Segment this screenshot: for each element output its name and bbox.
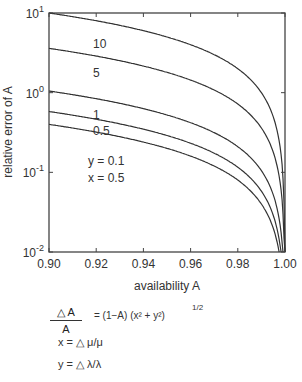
curve-labels: 10510.5 bbox=[93, 37, 110, 138]
y-axis-label: relative error of A bbox=[1, 86, 15, 177]
curve-1 bbox=[49, 91, 283, 252]
curve-lowest bbox=[49, 124, 279, 252]
curve-label: 10 bbox=[93, 37, 107, 51]
formula-x-definition: x = △ μ/μ bbox=[58, 336, 103, 349]
x-tick-label: 0.94 bbox=[132, 257, 156, 271]
chart: 0.900.920.940.960.981.00 10110010-110-2 … bbox=[0, 0, 302, 300]
formula-denominator: A bbox=[50, 321, 82, 335]
x-axis-ticks: 0.900.920.940.960.981.00 bbox=[37, 13, 297, 271]
y-tick-label: 10-1 bbox=[23, 163, 44, 180]
annotation-x: x = 0.5 bbox=[88, 171, 125, 185]
curve-label: 0.5 bbox=[93, 124, 110, 138]
curve-0.5 bbox=[49, 112, 281, 253]
curve-label: 5 bbox=[93, 66, 100, 80]
formula-rhs: = (1−A) (x² + y²) bbox=[94, 310, 165, 321]
x-tick-label: 0.98 bbox=[226, 257, 250, 271]
curve-10 bbox=[49, 13, 285, 252]
plot-frame bbox=[49, 13, 285, 252]
curves bbox=[49, 13, 285, 252]
x-axis-label: availability A bbox=[134, 279, 200, 293]
formula-fraction: △ A A bbox=[50, 306, 82, 335]
formula-y-definition: y = △ λ/λ bbox=[58, 358, 101, 371]
y-tick-label: 100 bbox=[26, 84, 44, 101]
x-tick-label: 0.92 bbox=[85, 257, 109, 271]
y-tick-label: 101 bbox=[26, 4, 44, 21]
curve-label: 1 bbox=[93, 108, 100, 122]
formula-numerator: △ A bbox=[50, 306, 82, 321]
x-tick-label: 0.90 bbox=[37, 257, 61, 271]
formula-exponent: 1/2 bbox=[192, 303, 203, 312]
x-tick-label: 1.00 bbox=[273, 257, 297, 271]
x-tick-label: 0.96 bbox=[179, 257, 203, 271]
annotation-y: y = 0.1 bbox=[88, 154, 125, 168]
